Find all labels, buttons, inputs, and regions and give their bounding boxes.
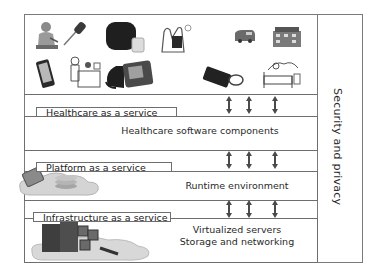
tablet-with-stethoscope-icon — [202, 66, 244, 88]
smartphone-icon — [36, 58, 56, 90]
security-label: Security and privacy — [331, 88, 344, 205]
smart-hub-device-icon — [104, 18, 146, 56]
double-arrow-icon — [272, 200, 278, 218]
runtime-environment-label: Runtime environment — [172, 180, 302, 191]
infrastructure-as-a-service-tab: Infrastructure as a service — [33, 212, 171, 222]
double-arrow-icon — [272, 151, 278, 169]
caregiver-reception-icon — [66, 55, 102, 89]
platform-as-a-service-tab: Platform as a service — [36, 162, 172, 172]
healthcare-software-label: Healthcare software components — [100, 125, 300, 136]
digital-thermometer-icon — [60, 20, 88, 48]
virtualized-servers-label: Virtualized servers — [172, 224, 302, 235]
hospital-building-icon — [272, 26, 302, 48]
double-arrow-icon — [272, 96, 278, 114]
hand-holding-keys-icon — [158, 22, 192, 58]
double-arrow-icon — [246, 200, 252, 218]
blood-pressure-monitor-icon — [104, 58, 156, 90]
storage-networking-label: Storage and networking — [172, 236, 302, 247]
double-arrow-icon — [246, 151, 252, 169]
ambulance-icon — [234, 29, 256, 43]
double-arrow-icon — [246, 96, 252, 114]
patient-in-bed-icon — [262, 56, 302, 90]
double-arrow-icon — [226, 96, 232, 114]
elderly-patient-icon — [34, 20, 60, 52]
double-arrow-icon — [226, 200, 232, 218]
double-arrow-icon — [226, 151, 232, 169]
